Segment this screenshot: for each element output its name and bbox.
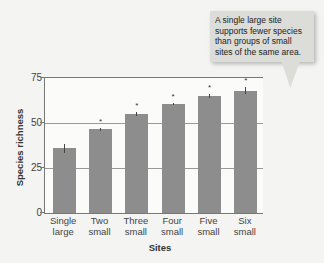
bar [125,114,148,213]
x-tick-label: Sixsmall [225,215,265,237]
gridline-50 [45,123,263,124]
y-axis-label: Species richness [14,103,25,193]
error-bar [64,144,65,153]
callout-pointer [263,62,299,88]
x-tick-label: Foursmall [152,215,192,237]
plot-area: ***** [44,77,263,214]
gridline-25 [45,168,263,169]
error-bar [173,103,174,105]
x-axis-label: Sites [140,242,180,253]
error-bar [136,112,137,116]
significance-marker: * [198,83,221,92]
x-tick-label: Fivesmall [189,215,229,237]
x-tick-label: Threesmall [116,215,156,237]
bar [89,129,112,213]
significance-marker: * [162,92,185,101]
bar [53,148,76,213]
x-tick-label: Singlelarge [43,215,83,237]
error-bar [209,94,210,98]
bar [234,91,257,213]
x-tick-label: Twosmall [80,215,120,237]
significance-marker: * [234,76,257,85]
bar [162,104,185,213]
bar [198,96,221,213]
significance-marker: * [89,117,112,126]
annotation-callout: A single large site supports fewer speci… [210,11,314,62]
significance-marker: * [125,101,148,110]
error-bar [100,128,101,131]
error-bar [245,87,246,93]
